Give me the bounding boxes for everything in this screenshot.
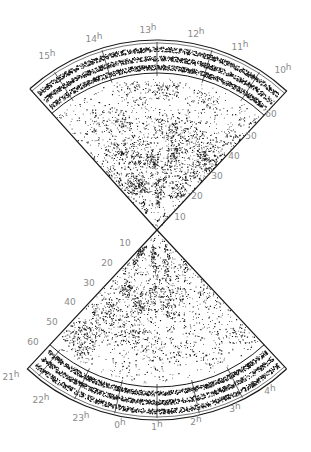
distance-label-upper: 40 — [228, 151, 240, 161]
ra-label-lower: 0h — [114, 417, 125, 430]
ra-label-upper: 14h — [85, 31, 102, 44]
distance-label-upper: 30 — [211, 171, 223, 181]
distance-label-upper: 60 — [265, 109, 277, 119]
distance-label-lower: 10 — [119, 238, 131, 248]
lower-wedge-galaxy-points — [62, 232, 259, 383]
lower-sky-strip — [35, 350, 280, 414]
ra-label-lower: 1h — [151, 419, 162, 432]
distance-label-lower: 40 — [64, 297, 76, 307]
redshift-survey-figure: 15h14h13h12h11h10h21h22h23h0h1h2h3h4h605… — [0, 0, 311, 452]
ra-label-lower: 3h — [229, 401, 240, 414]
cone-diagram: 15h14h13h12h11h10h21h22h23h0h1h2h3h4h605… — [0, 0, 311, 452]
ra-label-lower: 22h — [32, 392, 49, 405]
ra-label-upper: 11h — [231, 39, 248, 52]
distance-label-upper: 10 — [174, 212, 186, 222]
distance-label-lower: 30 — [83, 278, 95, 288]
ra-label-lower: 23h — [72, 410, 89, 423]
ra-label-upper: 10h — [274, 62, 291, 75]
ra-label-upper: 12h — [187, 26, 204, 39]
ra-label-lower: 2h — [190, 414, 201, 427]
distance-label-lower: 50 — [46, 317, 58, 327]
ra-label-upper: 15h — [38, 48, 55, 61]
distance-label-upper: 50 — [245, 131, 257, 141]
distance-label-lower: 60 — [27, 337, 39, 347]
ra-label-lower: 21h — [2, 369, 19, 382]
distance-label-upper: 20 — [191, 191, 203, 201]
ra-label-upper: 13h — [139, 22, 156, 35]
upper-sky-strip — [37, 47, 279, 111]
distance-label-lower: 20 — [101, 258, 113, 268]
